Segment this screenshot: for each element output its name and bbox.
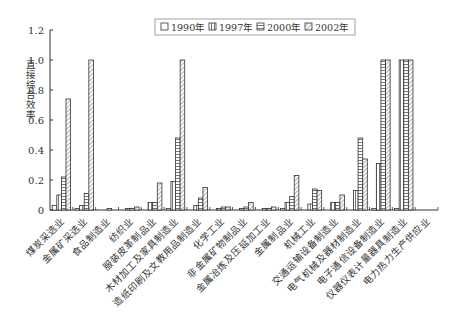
- bar: [335, 203, 340, 211]
- bar: [166, 209, 171, 211]
- y-tick-label: 0.4: [28, 145, 44, 156]
- bar: [331, 203, 336, 211]
- bar: [290, 197, 295, 211]
- bar: [153, 203, 158, 211]
- bar: [317, 191, 322, 211]
- bar: [408, 60, 413, 210]
- legend-item-label: 1997年: [219, 22, 253, 33]
- bar: [354, 191, 359, 211]
- bar: [203, 188, 208, 211]
- bar: [148, 203, 153, 211]
- y-tick-label: 0: [38, 205, 44, 216]
- bar: [130, 209, 135, 211]
- bars: [52, 60, 413, 210]
- legend-swatch: [161, 23, 168, 30]
- bar: [312, 189, 317, 210]
- bar: [176, 138, 181, 210]
- bar: [57, 195, 62, 210]
- bar: [381, 60, 386, 210]
- legend-item-label: 2000年: [267, 22, 301, 33]
- legend-swatch: [257, 23, 264, 30]
- bar: [84, 194, 89, 211]
- y-tick-label: 1.2: [28, 25, 44, 36]
- bar: [267, 209, 272, 211]
- bar: [180, 60, 185, 210]
- bar: [280, 209, 285, 211]
- legend-swatch: [209, 23, 216, 30]
- x-axis-labels: 煤炭采选业金属矿采选业食品制造业纺织业服装皮革制品业木材加工及家具制造业造纸印刷…: [24, 216, 432, 309]
- y-tick-label: 0.2: [28, 175, 44, 186]
- bar: [157, 183, 162, 210]
- bar: [340, 195, 345, 210]
- bar: [363, 159, 368, 210]
- bar: [372, 209, 377, 211]
- bar: [308, 204, 313, 210]
- bar: [66, 99, 71, 210]
- bar: [404, 60, 409, 210]
- bar: [194, 206, 199, 211]
- legend-item-label: 2002年: [315, 22, 349, 33]
- bar: [239, 209, 244, 211]
- bar: [134, 207, 139, 210]
- bar: [262, 209, 267, 211]
- bar: [294, 176, 299, 211]
- bar: [244, 207, 249, 210]
- bar: [285, 203, 290, 211]
- bar: [376, 164, 381, 211]
- bar: [358, 138, 363, 210]
- y-axis-label: 直接综合效率: [25, 59, 36, 120]
- bar: [249, 203, 254, 211]
- bar: [80, 206, 85, 211]
- bar: [125, 209, 130, 211]
- bar: [399, 60, 404, 210]
- legend: 1990年1997年2000年2002年: [155, 19, 355, 35]
- bar: [75, 209, 80, 211]
- bar: [217, 209, 222, 211]
- bar: [386, 60, 391, 210]
- bar: [221, 207, 226, 210]
- bar: [271, 207, 276, 210]
- bar: [226, 207, 231, 210]
- bar: [395, 209, 400, 211]
- legend-item-label: 1990年: [171, 22, 205, 33]
- bar: [89, 60, 94, 210]
- bar: [61, 177, 66, 210]
- legend-swatch: [305, 23, 312, 30]
- bar: [198, 198, 203, 210]
- bar: [107, 209, 112, 211]
- bar-chart: 00.20.40.60.81.01.2 煤炭采选业金属矿采选业食品制造业纺织业服…: [0, 0, 469, 312]
- bar: [52, 206, 57, 211]
- bar: [171, 182, 176, 211]
